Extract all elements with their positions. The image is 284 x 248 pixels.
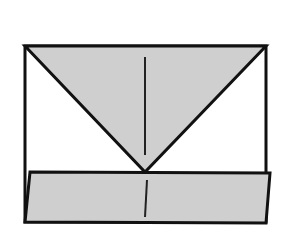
folded-bottom-band <box>25 172 270 223</box>
origami-diagram <box>0 0 284 248</box>
